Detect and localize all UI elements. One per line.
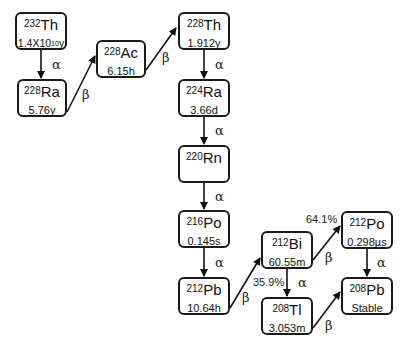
node-ra224: 224Ra 3.66d <box>178 79 230 117</box>
arrow-ra228-ac228 <box>67 56 95 112</box>
node-th232: 232Th 1.4X1010y <box>15 12 67 50</box>
isotope-label: 216Po <box>180 215 228 231</box>
node-tl208: 208Tl 3.053m <box>261 297 313 335</box>
node-bi212: 212Bi 60.55m <box>261 231 313 269</box>
halflife-label: 6.15h <box>98 65 144 78</box>
isotope-label: 212Bi <box>263 236 311 252</box>
branch-pct-beta: 64.1% <box>306 213 337 225</box>
decay-label-beta: β <box>82 87 90 102</box>
decay-label-beta: β <box>325 250 333 265</box>
halflife-label: 60.55m <box>263 256 311 269</box>
decay-label-alpha: α <box>52 57 61 72</box>
node-pb208: 208Pb Stable <box>341 277 393 315</box>
decay-label-beta: β <box>325 318 333 333</box>
decay-label-alpha: α <box>298 275 307 290</box>
isotope-label: 228Ra <box>19 84 65 100</box>
isotope-label: 224Ra <box>180 84 228 100</box>
node-ra228: 228Ra 5.76y <box>17 79 67 117</box>
decay-label-beta: β <box>162 50 170 65</box>
arrow-ac228-th228 <box>146 28 176 70</box>
halflife-label: Stable <box>343 302 391 315</box>
halflife-label: 5.76y <box>19 104 65 117</box>
halflife-label: 0.145s <box>180 235 228 248</box>
node-th228: 228Th 1.912y <box>178 12 230 50</box>
decay-label-alpha: α <box>215 57 224 72</box>
node-rn220: 220Rn <box>178 145 230 183</box>
decay-label-alpha: α <box>377 255 386 270</box>
isotope-label: 212Po <box>343 216 391 232</box>
halflife-label: 0.298µs <box>343 236 391 249</box>
node-pb212: 212Pb 10.64h <box>178 277 230 315</box>
halflife-label: 3.66d <box>180 104 228 117</box>
halflife-label: 3.053m <box>263 322 311 335</box>
node-po212: 212Po 0.298µs <box>341 211 393 249</box>
isotope-label: 220Rn <box>180 150 228 166</box>
isotope-label: 228Th <box>180 17 228 33</box>
isotope-label: 232Th <box>17 17 65 33</box>
decay-label-beta: β <box>242 290 250 305</box>
isotope-label: 212Pb <box>180 282 228 298</box>
halflife-label: 10.64h <box>180 302 228 315</box>
isotope-label: 228Ac <box>98 45 144 61</box>
isotope-label: 208Tl <box>263 302 311 318</box>
halflife-label: 1.4X1010y <box>17 37 65 50</box>
decay-label-alpha: α <box>215 255 224 270</box>
decay-label-alpha: α <box>215 123 224 138</box>
node-ac228: 228Ac 6.15h <box>96 40 146 78</box>
halflife-label: 1.912y <box>180 37 228 50</box>
node-po216: 216Po 0.145s <box>178 210 230 248</box>
branch-pct-alpha: 35.9% <box>253 276 284 288</box>
isotope-label: 208Pb <box>343 282 391 298</box>
decay-label-alpha: α <box>215 189 224 204</box>
